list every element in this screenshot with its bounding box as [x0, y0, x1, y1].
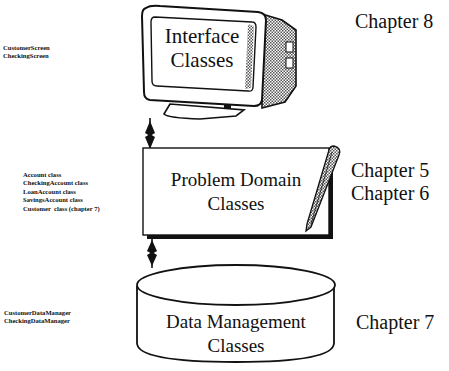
problem-domain-title-line1: Problem Domain [143, 168, 329, 192]
class-list-item: Account class [23, 171, 100, 179]
class-list-item: CustomerScreen [3, 44, 50, 52]
chapter-label-interface: Chapter 8 [355, 10, 433, 33]
problem-domain-class-list: Account class CheckingAccount class Loan… [23, 171, 100, 213]
class-list-item: CheckingAccount class [23, 179, 100, 187]
bidirectional-arrow-icon [145, 118, 155, 152]
interface-classes-label: Interface Classes [152, 24, 252, 72]
problem-domain-title-line2: Classes [143, 192, 329, 216]
class-list-item: CustomerDataManager [4, 309, 71, 317]
class-list-item: LoanAccount class [23, 188, 100, 196]
class-list-item: CheckingDataManager [4, 317, 71, 325]
chapter-label-data-management: Chapter 7 [356, 311, 434, 334]
class-list-item: Customer class (chapter 7) [23, 205, 100, 213]
interface-title-line2: Classes [152, 48, 252, 72]
chapter-label-problem-domain-1: Chapter 5 [351, 159, 429, 182]
problem-domain-classes-label: Problem Domain Classes [143, 168, 329, 216]
data-management-class-list: CustomerDataManager CheckingDataManager [4, 309, 71, 326]
data-management-title-line2: Classes [137, 334, 335, 358]
class-list-item: SavingsAccount class [23, 196, 100, 204]
chapter-label-problem-domain-2: Chapter 6 [351, 182, 429, 205]
interface-class-list: CustomerScreen CheckingScreen [3, 44, 50, 61]
data-management-classes-label: Data Management Classes [137, 310, 335, 358]
interface-title-line1: Interface [152, 24, 252, 48]
data-management-title-line1: Data Management [137, 310, 335, 334]
class-list-item: CheckingScreen [3, 52, 50, 60]
bidirectional-arrow-icon [147, 238, 157, 268]
